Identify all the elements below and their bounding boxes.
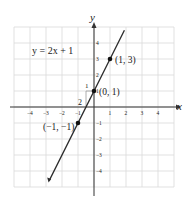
y-tick-label: −4 [96, 168, 102, 174]
point-label: (0, 1) [99, 87, 120, 98]
data-point [108, 57, 113, 62]
y-tick-label: −2 [96, 136, 102, 142]
x-tick-label: 3 [141, 110, 144, 116]
x-tick-label: −3 [43, 110, 49, 116]
x-tick-label: −4 [27, 110, 33, 116]
y-tick-label: −3 [96, 152, 102, 158]
x-tick-label: 4 [157, 110, 160, 116]
x-tick-label: −2 [59, 110, 65, 116]
x-tick-label: −1 [75, 110, 81, 116]
point-label: (−1, −1) [43, 122, 74, 133]
run-label: 1 [85, 82, 89, 90]
graph-plot: −4−3−2−112344321−1−2−3−4 12 (1, 3)(0, 1)… [0, 0, 193, 198]
rise-label: 2 [78, 98, 82, 107]
labeled-points: (1, 3)(0, 1)(−1, −1) [43, 55, 136, 133]
x-axis-label: x [176, 100, 182, 112]
x-tick-label: 2 [125, 110, 128, 116]
y-tick-label: 2 [96, 72, 99, 78]
y-axis-label: y [89, 11, 95, 23]
equation-label: y = 2x + 1 [32, 45, 73, 56]
y-tick-label: 3 [96, 56, 99, 62]
point-label: (1, 3) [115, 55, 136, 66]
y-tick-label: 4 [96, 40, 99, 46]
x-tick-label: 1 [109, 110, 112, 116]
y-tick-label: −1 [96, 120, 102, 126]
data-point [76, 121, 81, 126]
data-point [92, 89, 97, 94]
